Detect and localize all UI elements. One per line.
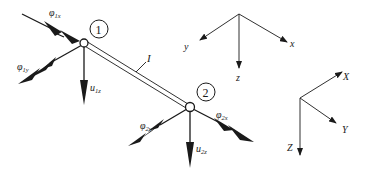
beam-element [83,41,188,108]
phi-1x-arrowhead-1 [44,21,62,36]
node-2-marker [186,103,195,112]
element-label-leader [136,62,146,72]
u-1z-label: u1z [90,82,101,94]
phi-1x-shaft [22,14,52,29]
local-axis-y-label: y [183,41,189,52]
local-axis-x-label: x [289,38,295,49]
element-label: I [146,52,152,64]
u-1z-arrowhead [80,80,88,105]
node-1-marker [80,39,88,47]
global-axes: X Y Z [287,71,350,155]
phi-2x-label: φ2x [216,109,228,121]
local-axes: y z x [183,14,295,83]
node-2-dofs [128,109,254,168]
node-1-label: 1 [96,23,102,37]
local-axis-z-label: z [235,72,240,83]
global-axis-y-label: Y [342,124,349,135]
u-2z-label: u2z [196,143,207,155]
phi-1x-label: φ1x [49,7,61,19]
grid-element-diagram: I 1 φ1x φ1y u1z 2 [0,0,368,173]
u-2z-arrowhead [186,142,194,168]
global-axis-x-label: X [342,71,350,82]
node-2-label: 2 [203,86,209,100]
node-1-dofs [18,14,88,105]
phi-2y-label: φ2y [140,120,152,132]
phi-1y-label: φ1y [17,61,29,73]
global-axis-z-label: Z [287,142,293,153]
